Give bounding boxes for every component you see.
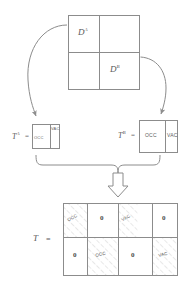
curved-arrow-left [28, 25, 67, 116]
transfer-matrix-a-frame [33, 125, 60, 149]
transfer-matrix-b-frame [140, 121, 178, 153]
domain-matrix-frame [69, 16, 140, 90]
figure-root: DA DB TA = OCC VAC TB = OCC VAC T = OCC … [0, 0, 190, 289]
assembled-matrix-frame [64, 204, 178, 276]
curly-brace [36, 155, 160, 173]
figure-svg [0, 0, 190, 289]
block-down-arrow [108, 173, 128, 197]
curved-arrow-right [141, 57, 167, 114]
